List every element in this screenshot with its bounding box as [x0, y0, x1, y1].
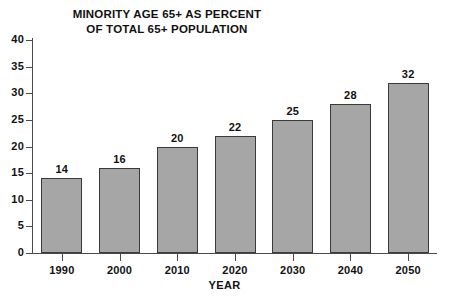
y-axis-tick-label: 30 [0, 87, 24, 98]
x-axis-tick [235, 254, 236, 261]
x-axis-tick-label: 2040 [320, 264, 380, 276]
chart-title: MINORITY AGE 65+ AS PERCENT OF TOTAL 65+… [47, 7, 287, 37]
x-axis-tick [177, 254, 178, 261]
y-axis-tick [26, 253, 33, 254]
chart-title-line-2: OF TOTAL 65+ POPULATION [47, 22, 287, 37]
bar-value-label: 14 [32, 163, 92, 175]
bar-value-label: 28 [320, 89, 380, 101]
x-axis-tick-label: 2020 [205, 264, 265, 276]
x-axis-tick [293, 254, 294, 261]
y-axis-tick [26, 40, 33, 41]
bar-value-label: 16 [90, 153, 150, 165]
x-axis-tick-label: 2030 [263, 264, 323, 276]
x-axis-tick-label: 1990 [32, 264, 92, 276]
bar [99, 168, 140, 253]
y-axis-tick-label: 10 [0, 194, 24, 205]
y-axis-tick [26, 147, 33, 148]
bar [272, 120, 313, 253]
bar [330, 104, 371, 253]
y-axis-tick-label: 15 [0, 167, 24, 178]
x-axis-tick [350, 254, 351, 261]
y-axis-tick-label: 5 [0, 220, 24, 231]
x-axis-tick-label: 2010 [147, 264, 207, 276]
y-axis-tick-label: 35 [0, 61, 24, 72]
y-axis-tick [26, 67, 33, 68]
plot-area [33, 40, 437, 253]
x-axis-tick-label: 2050 [378, 264, 438, 276]
y-axis-tick-label: 25 [0, 114, 24, 125]
bar-value-label: 32 [378, 68, 438, 80]
x-axis-tick [408, 254, 409, 261]
x-axis-tick [62, 254, 63, 261]
bar-value-label: 20 [147, 132, 207, 144]
y-axis-tick-label: 20 [0, 141, 24, 152]
y-axis-tick [26, 200, 33, 201]
x-axis-tick-label: 2000 [90, 264, 150, 276]
y-axis-tick-label: 0 [0, 247, 24, 258]
x-axis-tick [120, 254, 121, 261]
bar-value-label: 22 [205, 121, 265, 133]
y-axis-tick [26, 120, 33, 121]
bar [388, 83, 429, 253]
bar-value-label: 25 [263, 105, 323, 117]
bar [215, 136, 256, 253]
bar [157, 147, 198, 254]
x-axis-title: YEAR [0, 279, 449, 291]
chart-title-line-1: MINORITY AGE 65+ AS PERCENT [47, 7, 287, 22]
y-axis-tick [26, 93, 33, 94]
bar-chart: MINORITY AGE 65+ AS PERCENT OF TOTAL 65+… [0, 0, 449, 296]
y-axis-tick [26, 226, 33, 227]
bar [41, 178, 82, 253]
y-axis-tick-label: 40 [0, 34, 24, 45]
